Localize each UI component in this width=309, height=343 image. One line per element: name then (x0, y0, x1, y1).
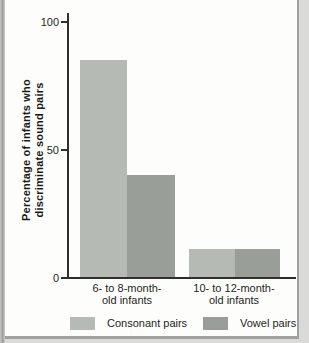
figure-canvas: Percentage of infants who discriminate s… (0, 0, 309, 343)
legend-item-consonant-pairs: Consonant pairs (70, 316, 187, 330)
bar-consonant-pairs-10-to-12-month-old-infants (189, 249, 235, 277)
plot-area: 0501006- to 8-month-old infants10- to 12… (0, 0, 309, 343)
legend-label-vowel-pairs: Vowel pairs (240, 317, 296, 330)
x-category-label-line: old infants (169, 295, 299, 307)
y-tick-0 (61, 277, 67, 279)
legend-swatch-vowel-pairs (203, 317, 228, 330)
legend-swatch-consonant-pairs (70, 317, 95, 330)
x-category-label-line: 10- to 12-month- (169, 283, 299, 295)
legend-item-vowel-pairs: Vowel pairs (203, 316, 296, 330)
bar-vowel-pairs-6-to-8-month-old-infants (127, 175, 175, 277)
y-tick-label-50: 50 (29, 144, 59, 156)
y-tick-100 (61, 21, 67, 23)
bar-consonant-pairs-6-to-8-month-old-infants (80, 60, 127, 277)
x-category-label-1: 10- to 12-month-old infants (169, 283, 299, 306)
x-axis-line (67, 277, 296, 279)
bar-vowel-pairs-10-to-12-month-old-infants (235, 249, 280, 277)
y-tick-label-100: 100 (29, 16, 59, 28)
y-axis-line (67, 13, 69, 279)
legend-label-consonant-pairs: Consonant pairs (107, 317, 187, 330)
y-tick-label-0: 0 (29, 272, 59, 284)
y-tick-50 (61, 149, 67, 151)
